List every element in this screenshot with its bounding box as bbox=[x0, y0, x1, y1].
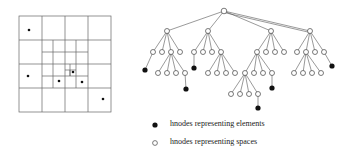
grid-points bbox=[27, 29, 105, 101]
legend-elements-label: hnodes representing elements bbox=[170, 119, 265, 128]
legend-symbols bbox=[152, 122, 157, 145]
spatial-grid bbox=[19, 16, 111, 112]
tree-filled-nodes bbox=[142, 63, 334, 110]
quadtree-figure bbox=[0, 0, 350, 154]
legend-spaces-label: hnodes representing spaces bbox=[170, 137, 257, 146]
filled-node-icon bbox=[152, 122, 157, 127]
hollow-node-icon bbox=[153, 141, 158, 146]
